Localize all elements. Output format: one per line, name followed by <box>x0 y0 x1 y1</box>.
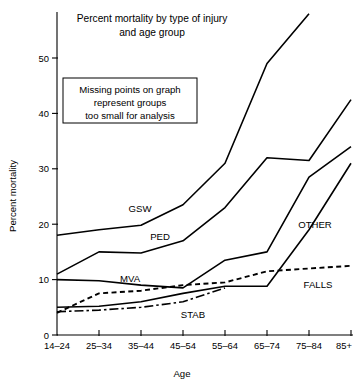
series-label-other: OTHER <box>298 219 332 230</box>
y-tick-label: 30 <box>39 163 49 174</box>
x-tick-label: 45–54 <box>170 340 196 351</box>
x-tick-label: 85+ <box>336 340 352 351</box>
x-tick-label: 25–34 <box>86 340 112 351</box>
x-tick-label: 14–24 <box>44 340 70 351</box>
x-tick-label: 55–64 <box>212 340 238 351</box>
chart-container: 01020304050 14–2425–3435–4445–5455–6465–… <box>0 0 364 384</box>
x-tick-label: 65–74 <box>254 340 280 351</box>
x-tick-label: 75–84 <box>296 340 322 351</box>
series-line-gsw <box>57 14 309 236</box>
series-label-mva: MVA <box>120 273 141 284</box>
annotation-line-1: Missing points on graph <box>79 84 180 95</box>
y-tick-label: 50 <box>39 53 49 64</box>
y-tick-label: 20 <box>39 219 49 230</box>
series-label-gsw: GSW <box>129 203 153 214</box>
annotation-box: Missing points on graph represent groups… <box>63 78 197 123</box>
chart-title-line-2: and age group <box>119 27 185 38</box>
chart-title-line-1: Percent mortality by type of injury <box>77 13 229 24</box>
series-label-ped: PED <box>150 231 170 242</box>
y-tick-label: 0 <box>44 330 49 341</box>
annotation-line-2: represent groups <box>94 97 167 108</box>
x-axis-title: Age <box>173 368 190 379</box>
y-axis-title: Percent mortality <box>7 160 18 232</box>
percent-mortality-line-chart: 01020304050 14–2425–3435–4445–5455–6465–… <box>0 0 364 384</box>
series-line-ped <box>57 100 351 275</box>
data-series-group <box>57 14 351 313</box>
series-line-mva <box>57 147 351 288</box>
x-axis-tick-labels: 14–2425–3435–4445–5455–6465–7475–8485+ <box>44 340 353 351</box>
annotation-line-3: too small for analysis <box>85 110 175 121</box>
series-label-stab: STAB <box>181 309 205 320</box>
series-label-falls: FALLS <box>304 279 333 290</box>
y-tick-label: 10 <box>39 274 49 285</box>
y-tick-label: 40 <box>39 108 49 119</box>
y-axis-tick-labels: 01020304050 <box>39 53 49 341</box>
x-tick-label: 35–44 <box>128 340 154 351</box>
